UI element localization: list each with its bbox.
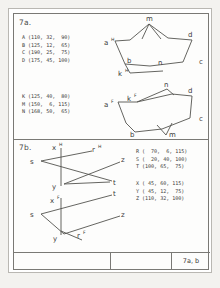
title-block-drawing-number: 7a, b: [172, 253, 210, 269]
panel-7a: 7a. A (110, 32, 90) B (125, 12, 65) C (1…: [14, 14, 208, 140]
label-b: b: [130, 131, 135, 139]
label-a-superscript-f: F: [111, 99, 114, 104]
title-block: 7a, b: [14, 252, 210, 269]
label-c: c: [199, 58, 203, 66]
coordinate-list-x-y-z: X ( 45, 60, 115) Y ( 45, 12, 75) Z (110,…: [136, 180, 184, 203]
panel-7a-label: 7a.: [19, 18, 31, 27]
label-a: a: [104, 39, 108, 47]
label-m: m: [169, 131, 176, 139]
label-a-superscript-h: H: [111, 37, 114, 42]
label-t: t: [113, 190, 116, 198]
label-a: a: [104, 101, 108, 109]
label-s: s: [30, 211, 34, 219]
segment-m-left: [157, 125, 166, 135]
figure-7a-top-view: m d a H b n c k H: [100, 16, 212, 78]
label-n: n: [164, 81, 168, 89]
label-z: z: [121, 211, 125, 219]
label-x-superscript-h: H: [59, 142, 62, 147]
panel-7b: 7b. R ( 70, 6, 115) S ( 20, 40, 100) T (…: [14, 140, 208, 254]
label-s: s: [30, 158, 34, 166]
title-block-cell-left: [14, 253, 111, 269]
label-m: m: [146, 15, 153, 23]
label-k-superscript-h: H: [125, 68, 128, 73]
label-x-superscript-f: F: [57, 195, 60, 200]
figure-7a-front-view: n d a F k F c b m: [100, 76, 212, 138]
sheet-inner-frame: 7a. A (110, 32, 90) B (125, 12, 65) C (1…: [13, 13, 209, 270]
label-r: r: [77, 232, 80, 240]
label-c: c: [199, 115, 203, 123]
segment-k-n: [137, 89, 167, 102]
figure-7b-front-view: x F t s z y r F: [20, 190, 132, 242]
label-k-superscript-f: F: [134, 93, 137, 98]
label-d: d: [188, 31, 192, 39]
segment-s-t: [41, 161, 112, 181]
segment-y-t: [64, 182, 110, 184]
segment-y-z: [64, 216, 120, 234]
label-n: n: [158, 59, 162, 67]
label-r-superscript-h: H: [98, 144, 101, 149]
label-x: x: [52, 144, 56, 152]
label-y: y: [53, 235, 57, 243]
figure-7b-top-view: x H r H s z y t: [20, 144, 132, 192]
label-t: t: [113, 179, 116, 187]
label-b: b: [127, 57, 132, 65]
label-z: z: [121, 156, 125, 164]
label-x: x: [50, 197, 54, 205]
drawing-sheet: 7a. A (110, 32, 90) B (125, 12, 65) C (1…: [8, 8, 212, 273]
coordinate-list-k-m-n: K (125, 40, 80) M (150, 6, 115) N (168, …: [22, 93, 70, 116]
title-block-cell-middle: [111, 253, 172, 269]
label-r-superscript-f: F: [83, 230, 86, 235]
coordinate-list-r-s-t: R ( 70, 6, 115) S ( 20, 40, 100) T (100,…: [136, 148, 187, 171]
label-r: r: [92, 146, 95, 154]
segment-m-left: [142, 24, 149, 39]
segment-k-n: [130, 71, 163, 73]
segment-s-r: [41, 151, 92, 161]
label-d: d: [188, 87, 192, 95]
coordinate-list-a-d: A (110, 32, 90) B (125, 12, 65) C (190, …: [22, 34, 70, 64]
